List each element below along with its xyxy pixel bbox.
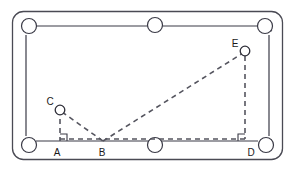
diagram-canvas: A B C D E xyxy=(0,0,296,171)
ball-e[interactable] xyxy=(240,46,250,56)
point-label-c: C xyxy=(46,96,53,107)
point-label-b: B xyxy=(99,147,106,158)
table-outer-frame xyxy=(13,12,283,160)
ball-group xyxy=(55,46,250,115)
pocket-bottom-left[interactable] xyxy=(22,138,37,153)
ball-c[interactable] xyxy=(55,105,65,115)
point-label-e: E xyxy=(232,38,239,49)
pocket-top-left[interactable] xyxy=(22,19,37,34)
segment-c-to-b xyxy=(62,112,103,141)
pocket-top-middle[interactable] xyxy=(148,18,163,33)
segment-b-to-e xyxy=(103,53,243,141)
right-angle-at-a xyxy=(60,134,67,141)
construction-lines xyxy=(60,53,245,141)
billiard-table-diagram: A B C D E xyxy=(0,0,296,171)
right-angle-at-d xyxy=(238,134,245,141)
point-label-a: A xyxy=(54,147,61,158)
point-label-d: D xyxy=(247,147,254,158)
pocket-top-right[interactable] xyxy=(258,19,273,34)
pocket-bottom-right[interactable] xyxy=(259,138,274,153)
